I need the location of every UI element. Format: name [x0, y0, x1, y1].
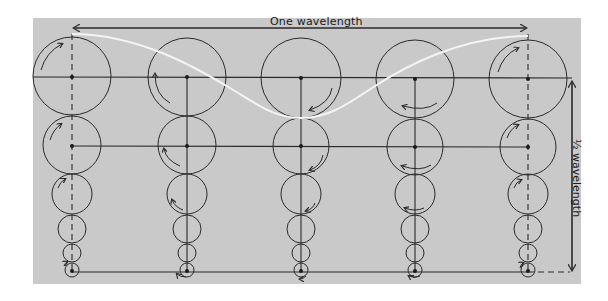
half-wavelength-label: ½ wavelength: [570, 139, 583, 217]
wave-profile-curve: [72, 34, 528, 118]
orbital-motion-diagram: [0, 0, 608, 301]
one-wavelength-label: One wavelength: [270, 15, 363, 28]
column-axes: [72, 34, 528, 272]
